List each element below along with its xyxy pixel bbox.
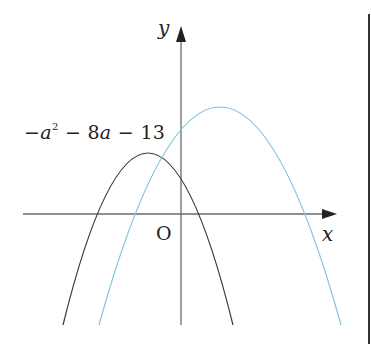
minus-sign: − bbox=[24, 121, 40, 143]
term-8: − 8 bbox=[59, 121, 100, 143]
y-axis-arrow-icon bbox=[176, 26, 186, 42]
origin-label: O bbox=[156, 222, 172, 244]
y-axis-label: y bbox=[158, 16, 169, 40]
diagram-canvas: y x O −a2 − 8a − 13 bbox=[0, 0, 371, 348]
var-a-2: a bbox=[100, 121, 112, 143]
exponent: 2 bbox=[52, 121, 59, 132]
term-13: − 13 bbox=[111, 121, 165, 143]
black-parabola bbox=[63, 153, 233, 325]
right-border-line bbox=[368, 14, 370, 344]
graph-svg bbox=[0, 0, 371, 348]
x-axis-arrow-icon bbox=[322, 209, 337, 219]
x-axis-label: x bbox=[322, 222, 333, 246]
var-a: a bbox=[40, 121, 52, 143]
y-intercept-label: −a2 − 8a − 13 bbox=[24, 121, 165, 143]
